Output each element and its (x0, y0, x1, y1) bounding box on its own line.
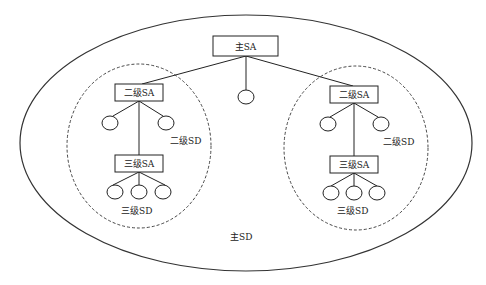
edge-right-l2-to-leaf1 (330, 103, 354, 117)
left-l3-leaf-2 (131, 185, 147, 199)
right-level3-sd-label: 三级SD (337, 205, 368, 216)
edge-main-to-left (142, 56, 246, 84)
left-level2-sd-label: 二级SD (170, 135, 201, 146)
edge-right-l3-to-leaf3 (354, 173, 377, 186)
edge-left-l2-to-leaf2 (139, 101, 163, 116)
edge-left-l3-to-leaf3 (139, 172, 165, 185)
left-level3-sa-label: 三级SA (124, 158, 155, 169)
diagram-canvas: 主SA 二级SA 二级SD 三级SA 三级SD 二级SA 二级SD 三级SA 三… (0, 0, 486, 285)
main-sa-label: 主SA (235, 41, 257, 52)
right-level2-sa-label: 二级SA (339, 89, 370, 100)
left-l2-leaf-1 (102, 116, 118, 130)
right-level2-sd-label: 二级SD (383, 136, 414, 147)
right-l2-leaf-2 (373, 117, 389, 131)
edge-main-to-right (246, 56, 353, 86)
center-leaf-node (238, 90, 254, 104)
left-level2-sa-label: 二级SA (124, 87, 155, 98)
left-l3-leaf-1 (107, 185, 123, 199)
main-sd-label: 主SD (230, 231, 252, 242)
left-l3-leaf-3 (155, 185, 171, 199)
left-l2-leaf-2 (158, 116, 174, 130)
right-l3-leaf-3 (369, 186, 385, 200)
edge-left-l3-to-leaf1 (113, 172, 139, 185)
edge-right-l2-to-leaf2 (354, 103, 378, 117)
edge-right-l3-to-leaf1 (331, 173, 354, 186)
right-l3-leaf-1 (323, 186, 339, 200)
right-l3-leaf-2 (346, 186, 362, 200)
right-l2-leaf-1 (320, 117, 336, 131)
left-level3-sd-label: 三级SD (121, 205, 152, 216)
right-level3-sa-label: 三级SA (339, 159, 370, 170)
edge-left-l2-to-leaf1 (113, 101, 139, 116)
